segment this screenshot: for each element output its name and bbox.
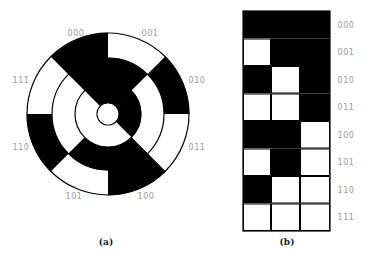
strip-cell-left_lsb [243,204,271,232]
row-label-001: 001 [338,48,355,57]
sector-label-011: 011 [189,143,206,152]
strip-cell-right_msb [300,94,330,122]
strip-cell-middle_bit [271,66,300,94]
row-label-110: 110 [338,186,355,195]
strip-cell-right_msb [300,121,330,149]
row-label-000: 000 [338,21,355,30]
strip-cell-middle_bit [271,11,300,39]
center-hole [98,104,119,125]
rotary-encoder-disk [27,33,189,195]
sector-label-010: 010 [189,76,206,85]
strip-cell-right_msb [300,204,330,232]
sector-label-100: 100 [138,192,155,201]
caption-a: (a) [99,237,113,247]
strip-cell-left_lsb [243,176,271,204]
row-label-100: 100 [338,131,355,140]
row-label-111: 111 [338,213,355,222]
strip-cell-left_lsb [243,94,271,122]
strip-cell-left_lsb [243,39,271,67]
row-label-011: 011 [338,103,355,112]
strip-cell-left_lsb [243,11,271,39]
strip-cell-left_lsb [243,149,271,177]
strip-cell-middle_bit [271,39,300,67]
strip-cell-middle_bit [271,204,300,232]
linear-encoder-strip [243,11,330,231]
strip-cell-right_msb [300,39,330,67]
strip-cell-left_lsb [243,121,271,149]
strip-cell-middle_bit [271,176,300,204]
strip-cell-right_msb [300,11,330,39]
sector-label-110: 110 [13,143,30,152]
sector-label-111: 111 [13,76,30,85]
strip-cell-right_msb [300,149,330,177]
binary-encoder-figure: 000001010011100101110111 (a) 00000101001… [0,0,365,259]
sector-label-101: 101 [66,192,83,201]
strip-cell-middle_bit [271,94,300,122]
strip-cell-middle_bit [271,149,300,177]
strip-cell-left_lsb [243,66,271,94]
strip-cell-right_msb [300,176,330,204]
sector-label-000: 000 [68,29,85,38]
row-label-101: 101 [338,158,355,167]
strip-row-labels: 000001010011100101110111 [338,21,355,223]
row-label-010: 010 [338,76,355,85]
sector-label-001: 001 [142,29,159,38]
strip-cell-right_msb [300,66,330,94]
strip-cell-middle_bit [271,121,300,149]
caption-b: (b) [280,237,295,247]
